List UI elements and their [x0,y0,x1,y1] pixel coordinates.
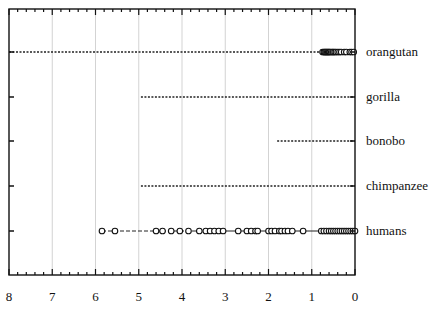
point-humans [197,228,203,234]
x-tick-label: 8 [6,289,13,304]
vertical-gridlines [52,9,312,275]
x-tick-label: 6 [92,289,99,304]
x-tick-label: 4 [179,289,186,304]
point-humans [99,228,105,234]
row-label-gorilla: gorilla [366,89,400,104]
point-humans [186,228,192,234]
point-humans [255,228,261,234]
x-tick-label: 3 [222,289,229,304]
point-humans [300,228,306,234]
point-humans [168,228,174,234]
row-label-bonobo: bonobo [366,133,405,148]
row-labels: orangutangorillabonobochimpanzeehumans [366,44,428,238]
x-tick-label: 7 [49,289,56,304]
x-tick-label: 1 [309,289,316,304]
point-humans [177,228,183,234]
x-tick-label: 0 [352,289,359,304]
point-humans [289,228,295,234]
row-label-chimpanzee: chimpanzee [366,178,428,193]
point-humans [220,228,226,234]
x-tick-label: 2 [265,289,272,304]
point-humans [112,228,118,234]
x-tick-label: 5 [136,289,143,304]
primate-distance-chart: 876543210 orangutangorillabonobochimpanz… [0,0,430,318]
point-humans [235,228,241,234]
row-label-humans: humans [366,223,406,238]
x-axis-tick-labels: 876543210 [6,289,359,304]
point-humans [160,228,166,234]
point-humans [153,228,159,234]
row-label-orangutan: orangutan [366,44,418,59]
data-points [99,49,358,234]
